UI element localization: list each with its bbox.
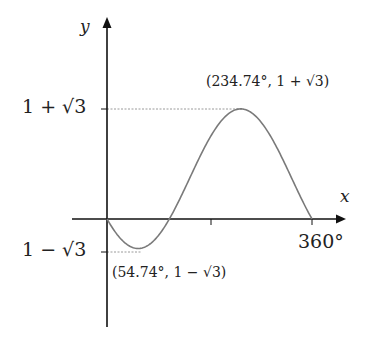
x-tick-label-360: 360° [298, 232, 344, 251]
cropped-text-remnant [0, 0, 230, 4]
y-axis-arrow-icon [103, 17, 112, 28]
x-axis-label: x [340, 188, 350, 205]
function-graph [0, 0, 365, 340]
y-axis-label: y [80, 18, 90, 35]
min-point-label: (54.74°, 1 − √3) [112, 265, 226, 279]
function-curve [107, 109, 312, 249]
x-axis-arrow-icon [336, 215, 346, 224]
y-tick-label-upper: 1 + √3 [22, 97, 86, 116]
y-tick-label-lower: 1 − √3 [22, 240, 86, 259]
max-point-label: (234.74°, 1 + √3) [206, 74, 329, 88]
